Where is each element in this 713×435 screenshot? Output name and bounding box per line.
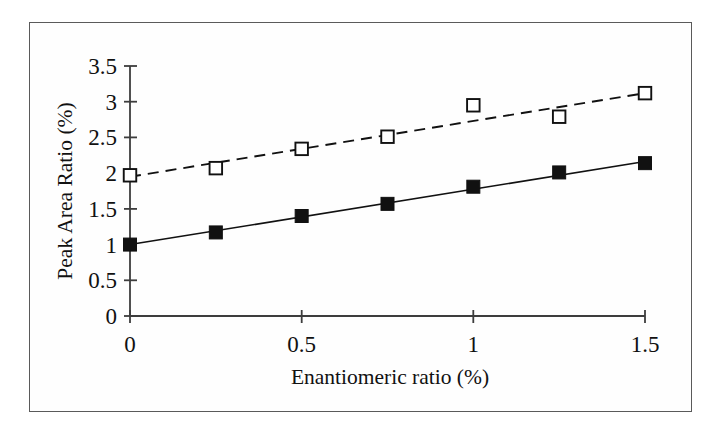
x-axis-tick-labels: 0 0.5 1 1.5	[124, 332, 659, 357]
x-tick-label: 0	[124, 332, 136, 357]
y-tick-label: 0	[106, 304, 118, 329]
x-tick-label: 0.5	[287, 332, 316, 357]
data-point-open-square	[210, 162, 223, 175]
data-point-open-square	[295, 143, 308, 156]
data-point-filled-square	[124, 238, 137, 251]
y-axis-tick-labels: 3.5 3 2.5 2 1.5 1 0.5 0	[88, 54, 117, 329]
y-tick-label: 2.5	[88, 125, 117, 150]
x-tick-label: 1.5	[631, 332, 660, 357]
data-point-filled-square	[295, 210, 308, 223]
x-axis-title: Enantiomeric ratio (%)	[291, 365, 489, 389]
figure-root: 3.5 3 2.5 2 1.5 1 0.5 0 0 0.5 1 1.5 Enan…	[0, 0, 713, 435]
y-tick-label: 1.5	[88, 197, 117, 222]
data-point-filled-square	[467, 180, 480, 193]
series-open-squares-markers	[124, 87, 652, 182]
y-tick-label: 3	[106, 90, 118, 115]
data-point-filled-square	[381, 197, 394, 210]
data-point-filled-square	[553, 166, 566, 179]
x-tick-label: 1	[468, 332, 480, 357]
y-tick-label: 3.5	[88, 54, 117, 79]
data-point-open-square	[639, 87, 652, 100]
y-tick-label: 0.5	[88, 268, 117, 293]
data-point-filled-square	[209, 226, 222, 239]
data-point-open-square	[124, 169, 137, 182]
y-tick-label: 1	[106, 233, 118, 258]
data-point-filled-square	[639, 157, 652, 170]
axes-group	[130, 66, 645, 316]
y-tick-label: 2	[106, 161, 118, 186]
data-point-open-square	[467, 99, 480, 112]
chart-canvas: 3.5 3 2.5 2 1.5 1 0.5 0 0 0.5 1 1.5 Enan…	[0, 0, 713, 435]
data-point-open-square	[381, 130, 394, 143]
data-point-open-square	[553, 110, 566, 123]
y-axis-title: Peak Area Ratio (%)	[53, 102, 77, 279]
series-filled-squares-markers	[124, 157, 652, 251]
